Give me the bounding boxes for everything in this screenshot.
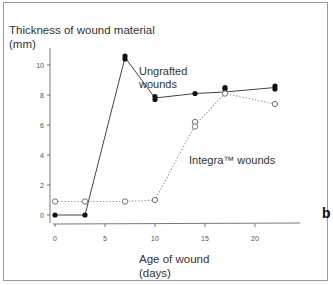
data-point-filled [152,97,157,102]
annotation-integra: Integra™ wounds [189,154,275,167]
data-point-filled [272,86,277,91]
panel-label: b [322,205,331,221]
y-tick-label: 4 [40,152,44,159]
series-line-1 [55,94,275,202]
x-tick-label: 20 [251,235,259,242]
annotation-ungrafted: Ungrafted wounds [139,65,187,91]
data-point-open [82,199,87,204]
data-point-filled [82,212,87,217]
data-point-open [122,199,127,204]
x-tick-label: 5 [103,235,107,242]
y-tick-label: 2 [40,182,44,189]
annotation-ungrafted-line1: Ungrafted [139,65,187,78]
data-point-open [52,199,57,204]
data-point-open [152,197,157,202]
x-axis-title: Age of wound (days) [139,252,209,280]
x-axis-line [53,223,300,224]
data-point-open [192,124,197,129]
y-tick-label: 6 [40,122,44,129]
x-axis-title-line1: Age of wound [139,252,209,266]
annotation-ungrafted-line2: wounds [139,78,187,91]
x-axis-title-line2: (days) [139,266,209,280]
data-point-filled [122,56,127,61]
chart-plot: 024681005101520 [0,0,333,285]
y-tick-label: 0 [40,212,44,219]
x-tick-label: 0 [53,235,57,242]
y-tick-label: 8 [40,92,44,99]
x-tick-label: 15 [201,235,209,242]
data-point-filled [52,212,57,217]
data-point-open [222,91,227,96]
y-tick-label: 10 [36,62,44,69]
x-tick-label: 10 [151,235,159,242]
data-point-open [272,101,277,106]
data-point-filled [192,91,197,96]
